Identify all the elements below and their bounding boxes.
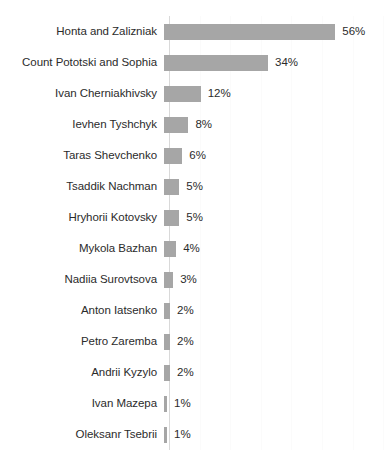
value-label: 12% bbox=[208, 87, 231, 100]
bar-row: Anton Iatsenko2% bbox=[0, 295, 387, 326]
bar-track: 1% bbox=[164, 419, 387, 450]
bar bbox=[164, 334, 170, 350]
chart-title bbox=[0, 0, 1, 1]
bar bbox=[164, 396, 167, 412]
bar-row: Ievhen Tyshchyk8% bbox=[0, 109, 387, 140]
category-label: Mykola Bazhan bbox=[0, 242, 163, 255]
bar-track: 3% bbox=[164, 264, 387, 295]
category-label: Taras Shevchenko bbox=[0, 149, 163, 162]
category-label: Andrii Kyzylo bbox=[0, 366, 163, 379]
value-label: 8% bbox=[195, 118, 212, 131]
value-label: 5% bbox=[186, 211, 203, 224]
bar-track: 5% bbox=[164, 171, 387, 202]
bar bbox=[164, 427, 167, 443]
bar-row: Petro Zaremba2% bbox=[0, 326, 387, 357]
value-label: 56% bbox=[342, 25, 365, 38]
category-label: Tsaddik Nachman bbox=[0, 180, 163, 193]
bar bbox=[164, 179, 179, 195]
bar-row: Taras Shevchenko6% bbox=[0, 140, 387, 171]
category-label: Hryhorii Kotovsky bbox=[0, 211, 163, 224]
bar bbox=[164, 148, 182, 164]
bar-row: Nadiia Surovtsova3% bbox=[0, 264, 387, 295]
bar-track: 6% bbox=[164, 140, 387, 171]
bar-rows: Honta and Zalizniak56%Count Pototski and… bbox=[0, 16, 387, 450]
bar-track: 2% bbox=[164, 295, 387, 326]
category-label: Ivan Cherniakhivsky bbox=[0, 87, 163, 100]
bar bbox=[164, 210, 179, 226]
value-label: 1% bbox=[174, 397, 191, 410]
bar bbox=[164, 272, 173, 288]
bar bbox=[164, 55, 268, 71]
bar-row: Ivan Mazepa1% bbox=[0, 388, 387, 419]
horizontal-bar-chart: Honta and Zalizniak56%Count Pototski and… bbox=[0, 0, 387, 463]
value-label: 2% bbox=[177, 335, 194, 348]
value-label: 4% bbox=[183, 242, 200, 255]
bar-track: 12% bbox=[164, 78, 387, 109]
bar-row: Tsaddik Nachman5% bbox=[0, 171, 387, 202]
bar-track: 56% bbox=[164, 16, 387, 47]
value-label: 6% bbox=[189, 149, 206, 162]
value-label: 1% bbox=[174, 428, 191, 441]
value-label: 3% bbox=[180, 273, 197, 286]
category-label: Ievhen Tyshchyk bbox=[0, 118, 163, 131]
category-label: Nadiia Surovtsova bbox=[0, 273, 163, 286]
bar-row: Mykola Bazhan4% bbox=[0, 233, 387, 264]
bar-row: Honta and Zalizniak56% bbox=[0, 16, 387, 47]
bar-row: Count Pototski and Sophia34% bbox=[0, 47, 387, 78]
bar-row: Hryhorii Kotovsky5% bbox=[0, 202, 387, 233]
bar-track: 4% bbox=[164, 233, 387, 264]
bar-row: Ivan Cherniakhivsky12% bbox=[0, 78, 387, 109]
bar bbox=[164, 24, 335, 40]
bar bbox=[164, 117, 188, 133]
value-label: 2% bbox=[177, 366, 194, 379]
value-label: 5% bbox=[186, 180, 203, 193]
bar bbox=[164, 86, 201, 102]
category-label: Count Pototski and Sophia bbox=[0, 56, 163, 69]
bar bbox=[164, 365, 170, 381]
bar-track: 8% bbox=[164, 109, 387, 140]
bar-track: 2% bbox=[164, 357, 387, 388]
bar bbox=[164, 303, 170, 319]
bar-track: 34% bbox=[164, 47, 387, 78]
category-label: Anton Iatsenko bbox=[0, 304, 163, 317]
category-label: Ivan Mazepa bbox=[0, 397, 163, 410]
value-label: 34% bbox=[275, 56, 298, 69]
chart-ylabel bbox=[0, 0, 1, 1]
category-label: Oleksanr Tsebrii bbox=[0, 428, 163, 441]
bar-row: Andrii Kyzylo2% bbox=[0, 357, 387, 388]
category-label: Honta and Zalizniak bbox=[0, 25, 163, 38]
bar-track: 5% bbox=[164, 202, 387, 233]
bar bbox=[164, 241, 176, 257]
value-label: 2% bbox=[177, 304, 194, 317]
bar-track: 2% bbox=[164, 326, 387, 357]
chart-xlabel bbox=[0, 0, 1, 1]
bar-track: 1% bbox=[164, 388, 387, 419]
bar-row: Oleksanr Tsebrii1% bbox=[0, 419, 387, 450]
category-label: Petro Zaremba bbox=[0, 335, 163, 348]
